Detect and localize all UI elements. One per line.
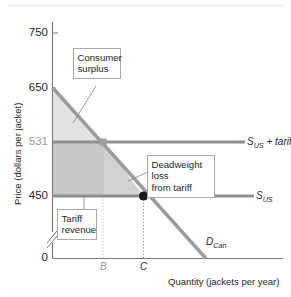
axis-break-mark-1 [47,231,57,243]
s-us-symbol: S [256,190,263,201]
x-axis-title: Quantity (jackets per year) [168,277,279,288]
y-tick-label-450: 450 [18,189,48,202]
y-tick-label-0: 0 [18,251,48,264]
tariff-revenue-line-1: Tariff [62,213,93,225]
consumer-surplus-callout: Consumer surplus [73,48,121,79]
tariff-revenue-region [53,142,104,196]
s-us-label: SUS [256,190,273,204]
s-us-tariff-subscript: US [254,141,264,150]
x-tick-label-c: C [140,261,147,272]
deadweight-loss-line-1: Deadweight loss [152,159,211,182]
tariff-revenue-callout: Tariff revenue [57,209,97,240]
s-us-plus-tariff-label: SUS + tariff [247,136,291,150]
point-b-marker [100,139,107,146]
d-can-subscript: Can [213,241,226,250]
consumer-surplus-line-1: Consumer [78,52,117,64]
consumer-surplus-leader [73,86,96,123]
d-can-label: DCan [206,236,226,250]
y-tick-label-750: 750 [18,26,48,39]
s-us-tariff-suffix: + tariff [264,136,291,147]
y-tick-label-650: 650 [18,81,48,94]
s-us-subscript: US [263,195,273,204]
s-us-tariff-symbol: S [247,136,254,147]
deadweight-loss-callout: Deadweight loss from tariff [147,155,215,198]
consumer-surplus-line-2: surplus [78,63,117,75]
y-tick-label-531: 531 [18,135,48,148]
tariff-revenue-line-2: revenue [62,224,93,236]
x-tick-label-b: B [100,261,107,272]
tariff-chart-figure: Price (dollars per jacket) Quantity (jac… [0,0,291,297]
deadweight-loss-line-2: from tariff [152,182,211,194]
